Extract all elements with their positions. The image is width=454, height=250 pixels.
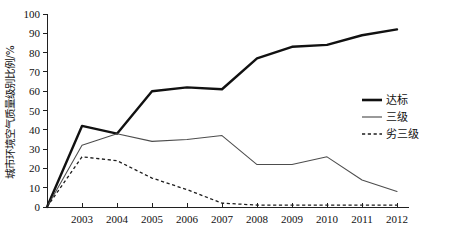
chart-legend: 达标 三级 劣三级 — [362, 93, 419, 141]
x-tick-label: 2003 — [71, 213, 94, 225]
legend-label-liesanji: 劣三级 — [386, 127, 419, 141]
y-tick-label: 90 — [29, 27, 41, 39]
y-tick-label: 40 — [29, 124, 41, 136]
series-line-sanji — [47, 134, 397, 207]
chart-container: 城市环境空气质量级别比例/% 0102030405060708090100 20… — [0, 0, 454, 250]
x-axis-ticks: 2003200420052006200720082009201020112012 — [71, 203, 408, 225]
x-tick-label: 2005 — [141, 213, 164, 225]
x-tick-label: 2008 — [246, 213, 269, 225]
line-chart-plot: 城市环境空气质量级别比例/% 0102030405060708090100 20… — [0, 0, 454, 250]
y-axis-ticks: 0102030405060708090100 — [24, 8, 48, 213]
x-tick-label: 2009 — [281, 213, 304, 225]
y-tick-label: 10 — [29, 182, 41, 194]
x-tick-label: 2012 — [386, 213, 408, 225]
y-axis-title: 城市环境空气质量级别比例/% — [4, 45, 16, 179]
series-line-dabiao — [47, 29, 397, 207]
y-tick-label: 50 — [29, 105, 41, 117]
x-tick-label: 2010 — [316, 213, 339, 225]
y-tick-label: 100 — [24, 8, 41, 20]
y-tick-label: 30 — [29, 143, 41, 155]
legend-label-dabiao: 达标 — [386, 93, 408, 107]
x-tick-label: 2007 — [211, 213, 234, 225]
series-line-liesanji — [47, 157, 397, 207]
x-tick-label: 2006 — [176, 213, 199, 225]
y-tick-label: 70 — [29, 66, 41, 78]
legend-label-sanji: 三级 — [386, 111, 408, 124]
y-tick-label: 80 — [29, 47, 41, 59]
y-tick-label: 0 — [35, 201, 41, 213]
y-tick-label: 20 — [29, 162, 41, 174]
x-tick-label: 2011 — [351, 213, 373, 225]
y-tick-label: 60 — [29, 85, 41, 97]
x-tick-label: 2004 — [106, 213, 129, 225]
